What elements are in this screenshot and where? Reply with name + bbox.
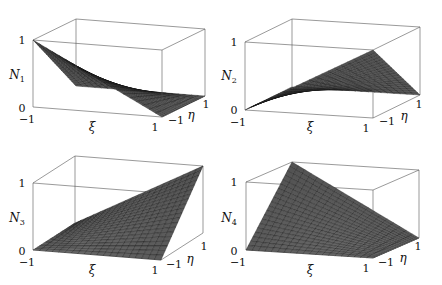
surface-mesh	[33, 40, 205, 117]
x-axis-label: ξ	[89, 120, 97, 134]
x-tick-max: 1	[152, 264, 159, 277]
z-axis-label: N3	[8, 211, 25, 227]
bounding-box-back	[245, 19, 420, 118]
y-tick-min: −1	[378, 256, 394, 269]
x-tick-max: 1	[363, 122, 370, 135]
y-axis-label: η	[186, 252, 194, 266]
plot-panel-n2: 10N2−11ξ−11η	[220, 19, 422, 135]
x-tick-min: −1	[19, 256, 35, 269]
plot-panel-n3: 10N3−11ξ−11η	[8, 156, 207, 277]
z-axis-label: N2	[220, 69, 237, 85]
y-axis-label: η	[399, 251, 407, 265]
y-tick-max: 1	[203, 98, 210, 111]
z-axis-label: N4	[220, 211, 237, 227]
surface-mesh	[245, 50, 420, 110]
y-tick-min: −1	[379, 115, 395, 128]
y-tick-min: −1	[166, 258, 182, 271]
y-axis-label: η	[187, 108, 195, 122]
x-tick-min: −1	[230, 116, 246, 129]
y-tick-max: 1	[415, 240, 422, 253]
z-tick-1: 1	[231, 36, 238, 49]
z-axis-label: N1	[8, 68, 25, 84]
x-axis-label: ξ	[89, 263, 97, 277]
x-tick-min: −1	[19, 113, 35, 126]
z-tick-1: 1	[231, 176, 238, 189]
y-axis-label: η	[400, 109, 408, 123]
z-tick-1: 1	[19, 177, 26, 190]
x-axis-label: ξ	[307, 263, 315, 277]
x-tick-max: 1	[363, 262, 370, 275]
shape-function-figure: 10N1−11ξ−11η 10N2−11ξ−11η 10N3−11ξ−11η 1…	[0, 0, 442, 285]
x-tick-min: −1	[230, 256, 246, 269]
x-axis-label: ξ	[307, 120, 315, 134]
z-tick-1: 1	[19, 34, 26, 47]
x-tick-max: 1	[152, 121, 159, 134]
plot-panel-n4: 10N4−11ξ−11η	[220, 162, 421, 277]
y-tick-max: 1	[201, 240, 208, 253]
y-tick-max: 1	[416, 98, 423, 111]
surface-mesh	[246, 162, 419, 258]
plot-panel-n1: 10N1−11ξ−11η	[8, 19, 209, 134]
surface-mesh	[33, 166, 203, 260]
y-tick-min: −1	[168, 114, 184, 127]
